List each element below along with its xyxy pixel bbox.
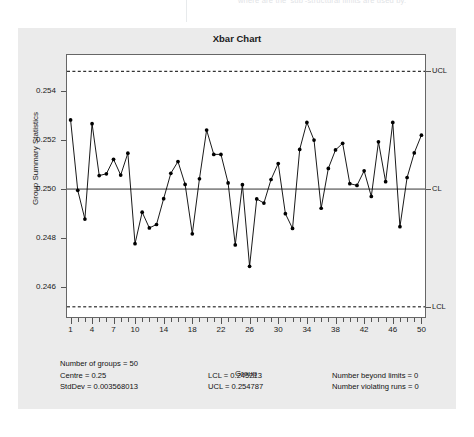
data-point — [241, 183, 245, 187]
data-point — [255, 197, 259, 201]
data-point — [269, 178, 273, 182]
cl-label: CL — [432, 185, 442, 193]
x-axis-tick — [71, 318, 72, 324]
data-point — [362, 169, 366, 173]
data-point — [291, 227, 295, 231]
top-cut-off-strip: where are the 'sub'-structural limits ar… — [0, 0, 474, 22]
x-axis-tick — [192, 318, 193, 324]
data-point — [155, 223, 159, 227]
x-axis-tick — [285, 318, 286, 322]
data-point — [190, 232, 194, 236]
plot-area — [66, 54, 426, 318]
data-point — [226, 181, 230, 185]
stat-number-of-groups: Number of groups = 50 — [60, 358, 138, 370]
data-point — [312, 138, 316, 142]
data-point — [276, 162, 280, 166]
data-point — [233, 243, 237, 247]
x-axis-tick — [414, 318, 415, 322]
data-point — [212, 153, 216, 157]
data-point — [205, 128, 209, 132]
stat-beyond-limits: Number beyond limits = 0 — [332, 370, 418, 382]
data-point — [162, 197, 166, 201]
x-axis-tick — [207, 318, 208, 322]
data-point — [83, 217, 87, 221]
cl-axis-tick — [426, 189, 431, 190]
x-axis-tick — [78, 318, 79, 322]
data-point — [341, 141, 345, 145]
data-point — [384, 180, 388, 184]
stat-ucl: UCL = 0.254787 — [208, 381, 263, 393]
x-axis-tick — [228, 318, 229, 322]
x-axis-tick — [185, 318, 186, 322]
x-axis-tick — [350, 318, 351, 322]
x-axis-tick — [378, 318, 379, 322]
x-axis-tick — [106, 318, 107, 322]
data-point — [169, 171, 173, 175]
y-axis-tick-label: 0.252 — [22, 136, 56, 144]
x-axis-tick — [307, 318, 308, 324]
x-axis-tick-label: 30 — [268, 326, 288, 334]
data-point — [391, 121, 395, 125]
x-axis-tick — [99, 318, 100, 322]
stat-stddev: StdDev = 0.003568013 — [60, 381, 138, 393]
x-axis-tick-label: 34 — [297, 326, 317, 334]
x-axis-tick — [221, 318, 222, 324]
x-axis-tick — [114, 318, 115, 324]
x-axis-tick — [199, 318, 200, 322]
data-point — [319, 206, 323, 210]
x-axis-tick — [178, 318, 179, 322]
x-axis-tick — [364, 318, 365, 324]
data-point — [147, 226, 151, 230]
data-point — [76, 188, 80, 192]
x-axis-tick — [128, 318, 129, 322]
x-axis-tick-label: 18 — [182, 326, 202, 334]
x-axis-tick — [85, 318, 86, 322]
x-axis-tick — [92, 318, 93, 324]
x-axis-tick — [386, 318, 387, 322]
x-axis-tick-label: 4 — [82, 326, 102, 334]
x-axis-tick — [321, 318, 322, 322]
data-point — [119, 173, 123, 177]
x-axis-tick — [157, 318, 158, 322]
x-axis-tick — [250, 318, 251, 324]
data-point — [369, 195, 373, 199]
data-point — [326, 167, 330, 171]
x-axis-tick — [343, 318, 344, 322]
x-axis-tick — [171, 318, 172, 322]
x-axis-tick-label: 38 — [326, 326, 346, 334]
x-axis-tick — [142, 318, 143, 322]
data-point — [140, 210, 144, 214]
x-axis-tick — [242, 318, 243, 322]
data-point — [112, 157, 116, 161]
data-point — [298, 148, 302, 152]
lcl-axis-tick — [426, 307, 431, 308]
x-axis-tick — [278, 318, 279, 324]
stat-centre: Centre = 0.25 — [60, 370, 106, 382]
data-point — [355, 184, 359, 188]
y-axis-tick-label: 0.250 — [22, 185, 56, 193]
control-chart-svg — [67, 55, 425, 317]
x-axis-tick-label: 42 — [354, 326, 374, 334]
data-point — [377, 140, 381, 144]
data-point — [348, 182, 352, 186]
data-point — [176, 160, 180, 164]
data-point — [198, 177, 202, 181]
x-axis-tick — [421, 318, 422, 324]
data-point — [105, 172, 109, 176]
data-point — [133, 242, 137, 246]
data-point — [97, 174, 101, 178]
x-axis-tick — [328, 318, 329, 322]
series-line — [71, 120, 422, 266]
y-axis-tick-label: 0.248 — [22, 234, 56, 242]
lcl-label: LCL — [432, 303, 446, 311]
summary-statistics-block: Number of groups = 50 Centre = 0.25 LCL … — [60, 358, 456, 393]
x-axis-tick — [264, 318, 265, 322]
data-point — [248, 264, 252, 268]
data-point — [412, 151, 416, 155]
x-axis-tick — [121, 318, 122, 322]
x-axis-tick — [214, 318, 215, 322]
stat-lcl: LCL = 0.245213 — [208, 370, 262, 382]
ucl-label: UCL — [432, 67, 447, 75]
x-axis-tick — [164, 318, 165, 324]
y-axis-tick-label: 0.246 — [22, 283, 56, 291]
